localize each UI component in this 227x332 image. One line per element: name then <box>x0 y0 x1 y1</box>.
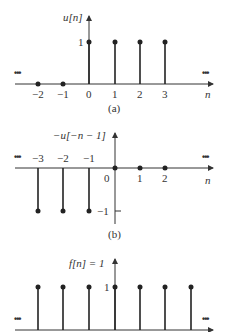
panel-caption: (a) <box>108 102 121 115</box>
stem-point <box>36 209 41 214</box>
stem-point <box>113 166 118 171</box>
stem-point <box>138 285 143 290</box>
y-axis-label: u[n] <box>63 11 83 23</box>
x-tick-label: −2 <box>57 152 69 164</box>
stem-point <box>163 166 168 171</box>
stem-point <box>113 285 118 290</box>
ellipsis-left: ••• <box>14 314 21 324</box>
stem-point <box>163 40 168 45</box>
y-axis-label: f[n] = 1 <box>69 257 105 269</box>
ellipsis-right: ••• <box>202 152 209 162</box>
stem-point <box>87 285 92 290</box>
x-tick-label: −1 <box>83 152 95 164</box>
x-tick-label: −2 <box>32 88 44 100</box>
x-tick-label: 1 <box>137 172 143 184</box>
stem-point <box>138 40 143 45</box>
stem-point <box>61 82 66 87</box>
ellipsis-right: ••• <box>202 68 209 78</box>
x-tick-label: 2 <box>137 88 143 100</box>
stem-point <box>87 209 92 214</box>
stem-point <box>61 209 66 214</box>
stem-point <box>113 40 118 45</box>
panel-b: −u[−n − 1] −1 n ••• ••• −3 −2 −1 0 1 2 (… <box>14 129 213 241</box>
stem-plots-diagram: u[n] 1 n ••• ••• −2 −1 0 1 2 3 (a) −u[−n… <box>0 0 227 332</box>
stem-point <box>36 82 41 87</box>
stem-point <box>61 285 66 290</box>
x-axis-label: n <box>205 174 211 186</box>
y-tick-label: −1 <box>97 205 109 217</box>
stem-point <box>138 166 143 171</box>
ellipsis-right: ••• <box>202 314 209 324</box>
x-tick-label: −3 <box>32 152 44 164</box>
y-tick-label: 1 <box>104 281 110 293</box>
stem-point <box>87 40 92 45</box>
stem-point <box>163 285 168 290</box>
x-tick-label: 2 <box>162 172 168 184</box>
x-tick-label: 0 <box>86 88 92 100</box>
y-tick-label: 1 <box>78 36 84 48</box>
x-tick-label: 0 <box>104 172 110 184</box>
panel-a: u[n] 1 n ••• ••• −2 −1 0 1 2 3 (a) <box>14 11 213 115</box>
panel-c: f[n] = 1 1 ••• ••• <box>14 257 213 330</box>
stem-point <box>189 285 194 290</box>
x-tick-label: −1 <box>57 88 69 100</box>
ellipsis-left: ••• <box>14 68 21 78</box>
panel-caption: (b) <box>108 228 121 241</box>
ellipsis-left: ••• <box>14 152 21 162</box>
x-axis-label: n <box>205 88 211 100</box>
stem-point <box>36 285 41 290</box>
x-tick-label: 1 <box>112 88 118 100</box>
y-axis-label: −u[−n − 1] <box>53 129 106 141</box>
x-tick-label: 3 <box>162 88 168 100</box>
